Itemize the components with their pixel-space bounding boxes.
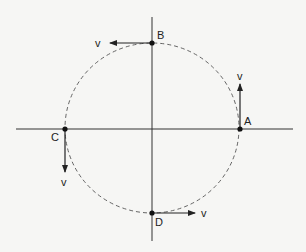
- point-dot-c: [62, 126, 67, 131]
- circular-motion-diagram: AvBvCvDv: [0, 0, 306, 252]
- velocity-label-c: v: [61, 176, 67, 188]
- point-dot-a: [237, 126, 242, 131]
- point-label-a: A: [244, 115, 252, 127]
- velocity-label-a: v: [237, 70, 243, 82]
- point-label-b: B: [157, 29, 164, 41]
- point-dot-d: [149, 210, 154, 215]
- point-label-d: D: [155, 216, 163, 228]
- diagram-svg: AvBvCvDv: [0, 0, 306, 252]
- velocity-label-b: v: [95, 37, 101, 49]
- point-d: Dv: [149, 207, 207, 228]
- point-dot-b: [149, 40, 154, 45]
- velocity-label-d: v: [201, 207, 207, 219]
- point-c: Cv: [51, 126, 68, 188]
- point-label-c: C: [51, 131, 59, 143]
